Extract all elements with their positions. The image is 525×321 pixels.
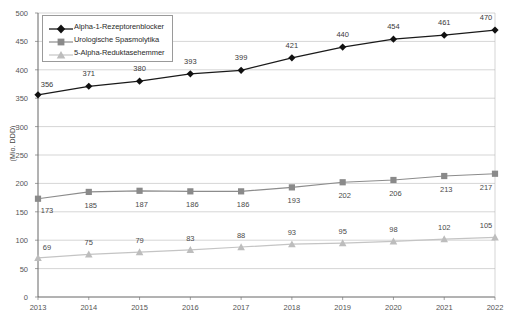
data-value-label: 75 bbox=[85, 238, 93, 247]
data-value-label: 202 bbox=[338, 191, 351, 200]
data-value-label: 470 bbox=[480, 13, 493, 22]
x-axis-tick: 2017 bbox=[233, 303, 250, 312]
data-value-label: 105 bbox=[480, 221, 493, 230]
data-value-label: 173 bbox=[41, 205, 54, 214]
square-marker-icon bbox=[48, 34, 74, 46]
data-value-label: 371 bbox=[83, 69, 96, 78]
data-value-label: 93 bbox=[288, 228, 296, 237]
data-value-label: 461 bbox=[438, 18, 451, 27]
legend-item-series-2[interactable]: 5-Alpha-Reduktasehemmer bbox=[48, 46, 167, 59]
legend-label-series-1: Urologische Spasmolytika bbox=[74, 35, 159, 44]
diamond-marker-icon bbox=[48, 21, 74, 33]
data-value-label: 186 bbox=[186, 200, 199, 209]
chart-legend: Alpha-1-Rezeptorenblocker Urologische Sp… bbox=[42, 15, 173, 62]
x-axis-tick: 2019 bbox=[334, 303, 351, 312]
data-value-label: 356 bbox=[41, 79, 54, 88]
data-value-label: 102 bbox=[438, 223, 451, 232]
data-value-label: 187 bbox=[135, 199, 148, 208]
data-value-label: 206 bbox=[389, 188, 402, 197]
data-value-label: 95 bbox=[338, 227, 346, 236]
data-value-label: 421 bbox=[286, 40, 299, 49]
legend-item-series-0[interactable]: Alpha-1-Rezeptorenblocker bbox=[48, 20, 167, 33]
data-value-label: 193 bbox=[288, 196, 301, 205]
data-value-label: 69 bbox=[43, 242, 51, 251]
legend-item-series-1[interactable]: Urologische Spasmolytika bbox=[48, 33, 167, 46]
legend-label-series-0: Alpha-1-Rezeptorenblocker bbox=[74, 22, 164, 31]
data-value-label: 185 bbox=[85, 200, 98, 209]
data-value-label: 393 bbox=[184, 56, 197, 65]
legend-label-series-2: 5-Alpha-Reduktasehemmer bbox=[74, 48, 165, 57]
data-value-label: 98 bbox=[389, 225, 397, 234]
data-value-label: 380 bbox=[133, 64, 146, 73]
x-axis-tick: 2013 bbox=[30, 303, 47, 312]
data-value-label: 440 bbox=[336, 30, 349, 39]
data-value-label: 83 bbox=[186, 233, 194, 242]
data-value-label: 454 bbox=[387, 22, 400, 31]
x-axis-tick: 2015 bbox=[131, 303, 148, 312]
x-axis-tick: 2016 bbox=[182, 303, 199, 312]
data-value-label: 217 bbox=[480, 182, 493, 191]
triangle-marker-icon bbox=[48, 47, 74, 59]
x-axis-tick: 2018 bbox=[284, 303, 301, 312]
x-axis-tick: 2014 bbox=[80, 303, 97, 312]
data-value-label: 88 bbox=[237, 231, 245, 240]
data-value-label: 399 bbox=[235, 53, 248, 62]
data-value-label: 213 bbox=[440, 185, 453, 194]
data-value-label: 186 bbox=[237, 200, 250, 209]
x-axis-tick: 2022 bbox=[487, 303, 504, 312]
x-axis-tick: 2021 bbox=[436, 303, 453, 312]
chart-container: (Mio. DDD) 05010015020025030035040045050… bbox=[0, 0, 525, 321]
data-value-label: 79 bbox=[135, 236, 143, 245]
x-axis-tick: 2020 bbox=[385, 303, 402, 312]
